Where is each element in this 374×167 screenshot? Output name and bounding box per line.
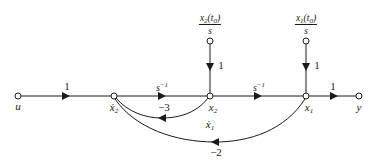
label-u: u (15, 101, 21, 112)
gain-x1-y: 1 (330, 81, 336, 92)
node-y (356, 93, 362, 99)
label-x2: x2 (209, 102, 217, 113)
arrow-x2-x1 (254, 92, 262, 100)
gain-x2init-x2: 1 (218, 60, 224, 71)
arrow-x1-y (330, 92, 338, 100)
arrow-x2-x2dot-feedback (158, 114, 166, 122)
arrow-x2init-x2 (206, 63, 214, 71)
arrow-u-x2dot (62, 92, 70, 100)
gain-u-x2dot: 1 (64, 81, 70, 92)
gain-x2dot-x2: s−1 (156, 82, 168, 93)
node-u (15, 93, 21, 99)
gain-x2-x2dot-feedback: −3 (158, 102, 170, 113)
x2-initial-condition: x2(t0) s (199, 13, 221, 36)
label-y: y (357, 102, 362, 113)
label-x2dot: ẋ2 (110, 102, 118, 113)
gain-x1-x2dot-feedback: −2 (210, 147, 222, 158)
gain-x2-x1: s−1 (253, 82, 265, 93)
node-x1 (303, 93, 309, 99)
arrow-x1init-x1 (302, 63, 310, 71)
label-x1dot: ẋ1 (206, 119, 214, 130)
arrow-x2dot-x2 (158, 92, 166, 100)
label-x1: x1 (305, 102, 313, 113)
node-x2dot (111, 93, 117, 99)
signal-flow-graph (0, 0, 374, 167)
node-x2 (207, 93, 213, 99)
node-x1-init (303, 38, 309, 44)
gain-x1init-x1: 1 (314, 60, 320, 71)
x1-initial-condition: x1(t0) s (295, 13, 317, 36)
node-x2-init (207, 38, 213, 44)
